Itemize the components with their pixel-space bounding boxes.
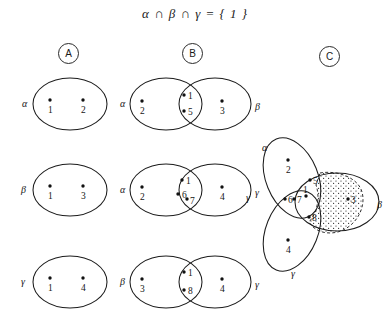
- set-oval-alpha: [130, 164, 202, 216]
- point-label: 3: [140, 284, 145, 294]
- point-dot: [48, 98, 51, 101]
- point-label: 1: [188, 91, 193, 101]
- point-label: 7: [297, 195, 302, 205]
- point-dot: [292, 197, 295, 200]
- column-a-row-2: β 1 3: [20, 164, 107, 216]
- point-dot: [81, 98, 84, 101]
- column-b-row-2: α γ 2 1 6 7 4: [120, 164, 260, 216]
- set-label-beta: β: [254, 101, 260, 112]
- point-label: 1: [48, 191, 53, 201]
- point-dot: [220, 277, 223, 280]
- set-label-alpha: α: [120, 184, 126, 195]
- column-a-row-3: γ 1 4: [21, 256, 107, 308]
- point-label: 8: [312, 213, 317, 223]
- column-b-row-1: α β 2 1 5 3: [120, 78, 260, 130]
- point-label: 1: [48, 283, 53, 293]
- point-label: 5: [313, 176, 318, 186]
- point-dot: [182, 288, 185, 291]
- point-label: 4: [286, 245, 291, 255]
- set-oval-beta: [179, 78, 251, 130]
- set-oval-gamma: [33, 256, 107, 308]
- set-label-beta: β: [376, 199, 382, 210]
- point-dot: [185, 197, 188, 200]
- point-label: 4: [81, 283, 86, 293]
- point-dot: [308, 178, 311, 181]
- point-label: 1: [303, 185, 308, 195]
- venn-diagram-figure: α ∩ β ∩ γ = { 1 } A B C α 1 2 β 1 3: [0, 0, 390, 328]
- point-label: 5: [188, 107, 193, 117]
- point-dot: [48, 184, 51, 187]
- point-label: 3: [81, 191, 86, 201]
- point-dot: [182, 109, 185, 112]
- point-dot: [286, 238, 289, 241]
- point-label: 1: [48, 105, 53, 115]
- point-dot: [48, 276, 51, 279]
- point-dot: [140, 277, 143, 280]
- point-dot: [307, 215, 310, 218]
- point-dot: [140, 185, 143, 188]
- set-oval-alpha: [130, 78, 202, 130]
- set-label-alpha: α: [120, 98, 126, 109]
- point-dot: [81, 276, 84, 279]
- point-dot: [81, 184, 84, 187]
- set-oval-beta: [33, 164, 107, 216]
- point-dot: [180, 178, 183, 181]
- point-label: 2: [140, 106, 145, 116]
- column-a-row-1: α 1 2: [22, 78, 107, 130]
- diagram-canvas: α 1 2 β 1 3 γ 1 4 α: [0, 0, 390, 328]
- set-label-gamma-bottom: γ: [291, 268, 296, 279]
- point-label: 3: [220, 106, 225, 116]
- point-label: 2: [140, 192, 145, 202]
- point-label: 1: [188, 268, 193, 278]
- point-dot: [182, 93, 185, 96]
- set-label-gamma: γ: [255, 279, 260, 290]
- set-label-alpha: α: [22, 98, 28, 109]
- set-label-gamma: γ: [21, 276, 26, 287]
- set-oval-gamma: [179, 256, 251, 308]
- column-b-row-3: β γ 3 1 8 4: [119, 256, 260, 308]
- set-oval-alpha: [33, 78, 107, 130]
- set-oval-gamma: [179, 164, 251, 216]
- point-label: 3: [351, 195, 356, 205]
- set-oval-beta: [130, 256, 202, 308]
- point-dot: [286, 158, 289, 161]
- set-label-alpha: α: [262, 142, 268, 153]
- point-label: 8: [188, 286, 193, 296]
- point-label: 2: [81, 105, 86, 115]
- set-label-beta: β: [119, 276, 125, 287]
- set-label-beta: β: [20, 184, 26, 195]
- point-label: 1: [186, 176, 191, 186]
- column-c-venn: 2 5 6 7 1 8 3 4 α β γ γ: [246, 129, 382, 279]
- point-label: 2: [286, 165, 291, 175]
- point-dot: [220, 99, 223, 102]
- point-dot: [176, 192, 179, 195]
- point-label: 4: [220, 192, 225, 202]
- point-label: 4: [220, 284, 225, 294]
- point-dot: [346, 197, 349, 200]
- point-dot: [182, 270, 185, 273]
- point-dot: [220, 185, 223, 188]
- point-label: 7: [190, 196, 195, 206]
- point-dot: [140, 99, 143, 102]
- point-dot: [283, 197, 286, 200]
- point-label: 6: [288, 195, 293, 205]
- set-label-gamma: γ: [255, 187, 260, 198]
